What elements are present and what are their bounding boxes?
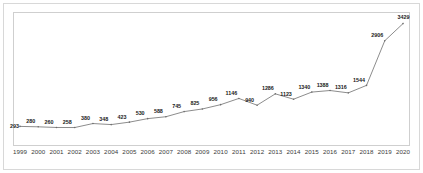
x-axis-tick-2010: 2010 <box>214 148 228 155</box>
x-axis-tick-2017: 2017 <box>341 148 355 155</box>
data-point-label: 258 <box>63 119 72 125</box>
x-axis-tick-1999: 1999 <box>13 148 27 155</box>
x-axis-tick-2000: 2000 <box>31 148 45 155</box>
x-axis-tick-2007: 2007 <box>159 148 173 155</box>
series-line-path <box>20 24 403 128</box>
data-point-marker <box>402 23 404 25</box>
data-point-label: 1316 <box>335 84 347 90</box>
data-point-marker <box>165 116 167 118</box>
x-axis-tick-2002: 2002 <box>68 148 82 155</box>
data-point-label: 280 <box>26 118 35 124</box>
x-axis-tick-2003: 2003 <box>86 148 100 155</box>
data-point-marker <box>347 92 349 94</box>
data-point-label: 1340 <box>298 84 310 90</box>
x-axis-tick-2008: 2008 <box>177 148 191 155</box>
x-axis-tick-2009: 2009 <box>195 148 209 155</box>
data-point-label: 1146 <box>226 90 238 96</box>
data-point-marker <box>110 124 112 126</box>
data-point-label: 3429 <box>398 14 410 20</box>
x-axis-tick-2012: 2012 <box>250 148 264 155</box>
x-axis-tick-2001: 2001 <box>49 148 63 155</box>
x-axis-tick-labels: 1999200020012002200320042005200620072008… <box>13 148 410 164</box>
data-point-label: 293 <box>10 123 19 129</box>
data-point-label: 745 <box>172 103 181 109</box>
data-point-marker <box>129 121 131 123</box>
x-axis-tick-2019: 2019 <box>378 148 392 155</box>
data-point-marker <box>293 98 295 100</box>
x-axis-tick-2016: 2016 <box>323 148 337 155</box>
data-point-marker <box>56 127 58 129</box>
x-axis-tick-2004: 2004 <box>104 148 118 155</box>
x-axis-tick-2011: 2011 <box>232 148 246 155</box>
data-point-marker <box>366 85 368 87</box>
x-axis-tick-2018: 2018 <box>359 148 373 155</box>
data-point-markers <box>19 23 404 129</box>
data-point-marker <box>238 98 240 100</box>
data-point-label: 588 <box>154 108 163 114</box>
data-point-label: 1388 <box>317 82 329 88</box>
x-axis-tick-2020: 2020 <box>396 148 410 155</box>
data-point-label: 825 <box>190 100 199 106</box>
x-axis-tick-2014: 2014 <box>286 148 300 155</box>
data-point-label: 940 <box>245 97 254 103</box>
data-point-label: 260 <box>45 119 54 125</box>
data-point-marker <box>311 91 313 93</box>
data-point-marker <box>147 118 149 120</box>
x-axis-tick-2005: 2005 <box>122 148 136 155</box>
data-point-label: 2906 <box>371 32 383 38</box>
x-axis-tick-2013: 2013 <box>268 148 282 155</box>
data-point-marker <box>92 123 94 125</box>
data-point-marker <box>19 126 21 128</box>
line-chart-plot <box>13 12 410 146</box>
data-point-label: 1544 <box>353 77 365 83</box>
data-point-marker <box>202 108 204 110</box>
data-point-marker <box>329 90 331 92</box>
data-point-marker <box>256 104 258 106</box>
x-axis-tick-2006: 2006 <box>141 148 155 155</box>
data-point-label: 423 <box>117 114 126 120</box>
data-point-label: 380 <box>81 115 90 121</box>
data-point-marker <box>275 93 277 95</box>
data-point-label: 1286 <box>262 85 274 91</box>
data-point-marker <box>183 111 185 113</box>
chart-figure: 2932802602583803484235305887458259561146… <box>0 0 423 173</box>
data-point-marker <box>220 104 222 106</box>
data-point-marker <box>37 126 39 128</box>
data-point-label: 1123 <box>280 91 292 97</box>
data-point-label: 956 <box>209 96 218 102</box>
x-axis-tick-2015: 2015 <box>305 148 319 155</box>
data-point-marker <box>384 40 386 42</box>
data-point-label: 530 <box>136 110 145 116</box>
data-point-label: 348 <box>99 116 108 122</box>
data-point-marker <box>74 127 76 129</box>
